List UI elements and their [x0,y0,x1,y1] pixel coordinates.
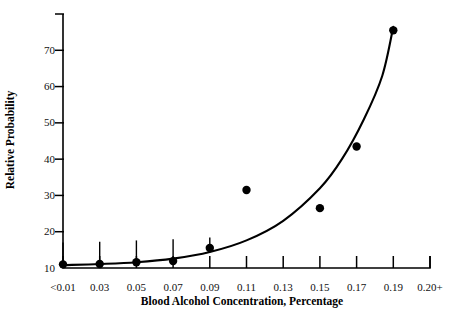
x-tick-label: 0.20+ [417,281,442,293]
data-point-marker [206,244,214,252]
x-tick-label: 0.09 [200,281,220,293]
x-tick-label: 0.19 [384,281,404,293]
data-point-marker [352,142,360,150]
x-tick-label: 0.03 [90,281,110,293]
y-tick-label: 20 [44,225,56,237]
y-tick-label: 10 [44,262,56,274]
x-tick-label: 0.07 [163,281,183,293]
x-tick-label: 0.13 [274,281,294,293]
x-axis-title: Blood Alcohol Concentration, Percentage [141,295,343,308]
x-tick-label: 0.15 [310,281,330,293]
y-tick-label: 50 [44,116,56,128]
x-tick-label: 0.17 [347,281,367,293]
data-point-marker [169,257,177,265]
data-point-marker [316,204,324,212]
y-tick-labels: 10 20 30 40 50 60 70 [44,44,56,274]
y-axis-title: Relative Probability [4,91,17,190]
y-tick-label: 30 [44,189,56,201]
data-point-marker [96,260,104,268]
data-point-marker [59,260,67,268]
chart-figure: Relative Probability 10 20 30 40 50 60 7… [0,0,451,311]
y-tick-label: 60 [44,80,56,92]
x-tick-label: 0.05 [127,281,147,293]
y-tick-label: 70 [44,44,56,56]
y-tick-label: 40 [44,153,56,165]
chart-axes [55,14,430,268]
data-points [59,26,398,268]
exponential-fit-curve [63,27,393,265]
data-point-marker [242,186,250,194]
x-tick-label: 0.11 [237,281,256,293]
x-tick-labels: <0.010.030.050.070.090.110.130.150.170.1… [50,281,442,293]
relative-probability-scatter-chart: Relative Probability 10 20 30 40 50 60 7… [0,0,451,311]
data-point-marker [132,258,140,266]
data-point-marker [389,26,397,34]
x-tick-label: <0.01 [50,281,75,293]
